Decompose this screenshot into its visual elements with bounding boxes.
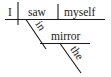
direct-object-word: myself <box>64 6 95 19</box>
prepositional-object-word: mirror <box>51 30 81 42</box>
sentence-diagram: I saw myself in mirror the <box>0 0 111 77</box>
verb-word: saw <box>28 6 47 18</box>
subject-word: I <box>8 6 12 18</box>
preposition-word: in <box>33 18 48 32</box>
